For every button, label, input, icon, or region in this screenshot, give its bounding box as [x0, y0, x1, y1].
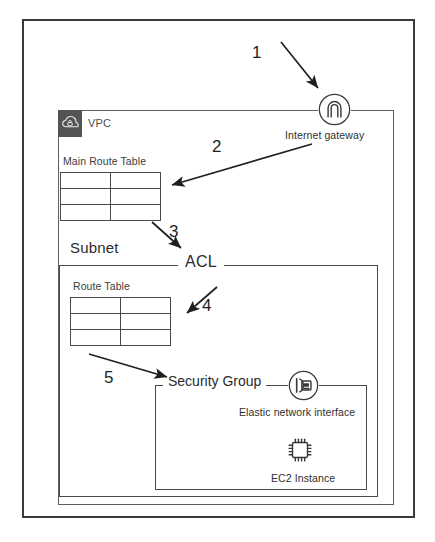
table-row [71, 314, 170, 330]
table-cell [71, 298, 121, 313]
ec2-instance-caption: EC2 Instance [271, 472, 335, 484]
internet-gateway-caption: Internet gateway [285, 129, 364, 141]
vpc-label: VPC [88, 117, 111, 129]
step-number-5: 5 [104, 368, 113, 388]
elastic-network-interface-icon [288, 370, 319, 401]
table-cell [61, 173, 111, 188]
table-cell [71, 314, 121, 329]
subnet-label: Subnet [70, 239, 119, 256]
table-row [71, 298, 170, 314]
acl-label: ACL [178, 253, 224, 271]
step-number-1: 1 [252, 43, 261, 63]
step-number-4: 4 [202, 296, 211, 316]
table-row [71, 330, 170, 345]
ec2-chip-icon [285, 435, 315, 469]
table-cell [111, 205, 160, 220]
table-cell [71, 330, 121, 345]
table-cell [61, 205, 111, 220]
elastic-network-interface-caption: Elastic network interface [239, 406, 355, 418]
diagram-canvas: VPC Internet gateway Main Route Table Su… [0, 0, 435, 542]
internet-gateway-icon [318, 93, 351, 126]
table-cell [111, 173, 160, 188]
cloud-lock-icon [58, 115, 82, 130]
table-row [61, 189, 160, 205]
table-cell [121, 330, 170, 345]
table-row [61, 205, 160, 220]
main-route-table [60, 172, 161, 221]
subnet-route-table-title: Route Table [73, 280, 130, 292]
table-cell [111, 189, 160, 204]
table-cell [121, 314, 170, 329]
main-route-table-title: Main Route Table [63, 155, 146, 167]
vpc-icon-tab [58, 110, 82, 137]
subnet-route-table [70, 297, 171, 346]
table-row [61, 173, 160, 189]
step-number-3: 3 [169, 222, 178, 242]
table-cell [121, 298, 170, 313]
security-group-label: Security Group [163, 373, 266, 389]
step-number-2: 2 [212, 137, 221, 157]
table-cell [61, 189, 111, 204]
